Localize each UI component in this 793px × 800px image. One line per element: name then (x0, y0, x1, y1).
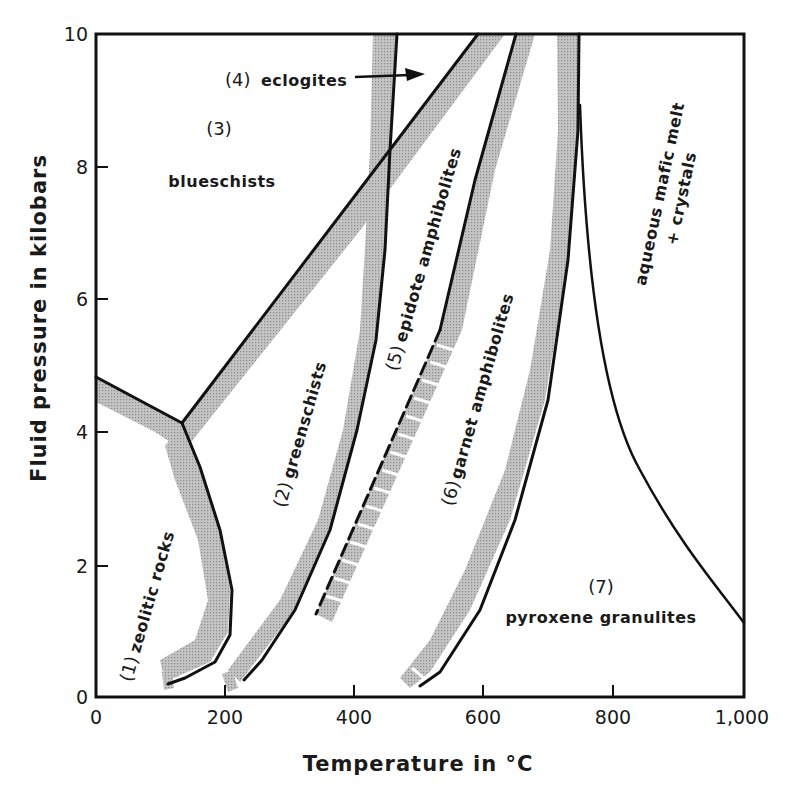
y-tick-4: 4 (76, 421, 88, 443)
y-tick-10: 10 (64, 23, 88, 45)
svg-text:greenschists: greenschists (279, 359, 331, 481)
x-tick-1000: 1,000 (715, 706, 769, 728)
x-tick-800: 800 (595, 706, 631, 728)
x-tick-200: 200 (207, 706, 243, 728)
svg-text:(6): (6) (437, 478, 464, 508)
x-axis-title: Temperature in °C (303, 752, 534, 776)
svg-text:(1): (1) (115, 653, 142, 683)
region-melt-label: aqueous mafic melt + crystals (631, 101, 710, 292)
band-blueschist (182, 34, 505, 446)
region-4-number: (4) (225, 69, 251, 90)
shaded-bands (96, 34, 579, 692)
y-tick-6: 6 (76, 288, 88, 310)
y-tick-labels: 0 2 4 6 8 10 (64, 23, 88, 708)
region-2-label: (2) greenschists (269, 359, 331, 510)
y-tick-0: 0 (76, 686, 88, 708)
metamorphic-facies-diagram: 0 2 4 6 8 10 0 200 400 600 800 1,000 Tem… (0, 0, 793, 800)
svg-text:zeolitic rocks: zeolitic rocks (125, 529, 178, 655)
svg-text:(2): (2) (269, 479, 296, 509)
region-4-name: eclogites (261, 71, 347, 90)
y-tick-2: 2 (76, 555, 88, 577)
y-axis-title: Fluid pressure in kilobars (27, 154, 51, 482)
band-zeolite-blueschist (96, 377, 182, 446)
x-tick-labels: 0 200 400 600 800 1,000 (90, 706, 769, 728)
x-tick-400: 400 (336, 706, 372, 728)
region-7-name: pyroxene granulites (505, 608, 696, 627)
region-3-number: (3) (206, 118, 232, 139)
y-tick-8: 8 (76, 156, 88, 178)
svg-text:(5): (5) (381, 343, 408, 373)
band-zeolite-tail (162, 669, 174, 690)
region-3-name: blueschists (168, 172, 275, 191)
x-tick-600: 600 (465, 706, 501, 728)
x-tick-0: 0 (90, 706, 102, 728)
region-7-number: (7) (588, 576, 614, 597)
